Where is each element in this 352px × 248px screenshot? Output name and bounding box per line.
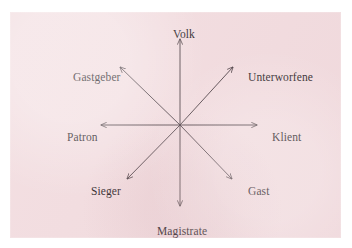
node-label-patron: Patron — [67, 132, 98, 144]
radial-arrow-graphic — [10, 12, 341, 238]
node-label-magistrate: Magistrate — [157, 226, 207, 238]
node-label-volk: Volk — [173, 29, 195, 41]
node-label-klient: Klient — [272, 132, 301, 144]
arrow-sieger — [127, 125, 180, 179]
arrow-unterworfene — [180, 67, 233, 125]
arrow-gastgeber — [120, 67, 180, 125]
node-label-sieger: Sieger — [91, 186, 121, 198]
node-label-gastgeber: Gastgeber — [73, 72, 121, 84]
node-label-unterworfene: Unterworfene — [248, 72, 313, 84]
diagram-screenshot: Volk Unterworfene Klient Gast Magistrate… — [0, 0, 352, 248]
node-label-gast: Gast — [248, 186, 269, 198]
diagram-panel: Volk Unterworfene Klient Gast Magistrate… — [10, 12, 341, 238]
arrow-gast — [180, 125, 232, 179]
